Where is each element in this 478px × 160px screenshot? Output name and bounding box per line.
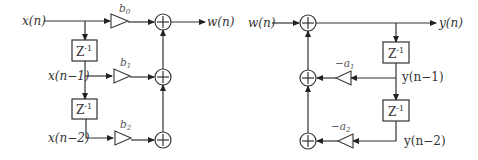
gain-label-b0: b0 [119, 2, 131, 16]
adder-bottom [300, 133, 316, 149]
gain-label-b2: b2 [120, 118, 132, 132]
delay-block-3: Z-1 [383, 42, 409, 63]
tap-label-y-n-2: y(n−2) [403, 134, 446, 148]
delay-block-1: Z-1 [72, 40, 97, 61]
tap-label-x-n-2: x(n−2) [48, 131, 90, 145]
delay-block-2: Z-1 [72, 99, 97, 119]
gain-a1-triangle [336, 71, 351, 85]
input-label-xn: x(n) [22, 14, 46, 28]
input-label-wn: w(n) [248, 16, 276, 30]
gain-b2-triangle [115, 131, 131, 145]
gain-label-b1: b1 [120, 56, 131, 70]
fir-diagram: x(n) Z-1 x(n−1) Z-1 x(n−2) b0 b1 b2 [22, 2, 235, 148]
gain-label-a1: −a1 [335, 57, 355, 71]
wire [86, 119, 113, 138]
gain-a2-triangle [338, 134, 353, 148]
adder-1 [155, 14, 171, 30]
tap-label-y-n-1: y(n−1) [401, 70, 444, 84]
wire [353, 121, 396, 141]
gain-b0-triangle [111, 14, 128, 28]
adder-2 [155, 69, 171, 85]
tap-label-x-n-1: x(n−1) [48, 69, 90, 83]
adder-top [300, 15, 316, 31]
gain-b1-triangle [114, 69, 130, 83]
block-diagram: x(n) Z-1 x(n−1) Z-1 x(n−2) b0 b1 b2 [0, 0, 478, 160]
output-label-yn: y(n) [438, 16, 463, 30]
output-label-wn: w(n) [207, 15, 235, 29]
iir-diagram: w(n) y(n) Z-1 y(n−1) [248, 15, 463, 149]
adder-3 [155, 132, 171, 148]
gain-label-a2: −a2 [331, 120, 351, 134]
delay-block-4: Z-1 [383, 100, 409, 121]
adder-middle [300, 70, 316, 86]
